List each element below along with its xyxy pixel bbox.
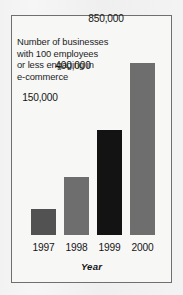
caption-line-2: with 100 employees (17, 48, 142, 60)
tick-label-2000: 2000 (125, 242, 160, 253)
bar-1999 (97, 130, 122, 235)
caption-line-1: Number of businesses (17, 36, 142, 48)
chart-frame: Number of businesses with 100 employees … (11, 15, 172, 283)
bar-chart-plot-area: Number of businesses with 100 employees … (12, 16, 171, 282)
bar-1997 (31, 209, 56, 235)
x-axis-title: Year (12, 261, 171, 272)
value-label-1999: 850,000 (76, 13, 136, 24)
value-label-1997: 150,000 (10, 92, 70, 103)
tick-label-1997: 1997 (26, 242, 61, 253)
page-background: Number of businesses with 100 employees … (0, 0, 183, 295)
bar-1998 (64, 177, 89, 235)
tick-label-1999: 1999 (92, 242, 127, 253)
value-label-1998: 400,000 (43, 60, 103, 71)
caption-line-4: e-commerce (17, 71, 142, 83)
bar-2000 (130, 63, 155, 235)
tick-label-1998: 1998 (59, 242, 94, 253)
